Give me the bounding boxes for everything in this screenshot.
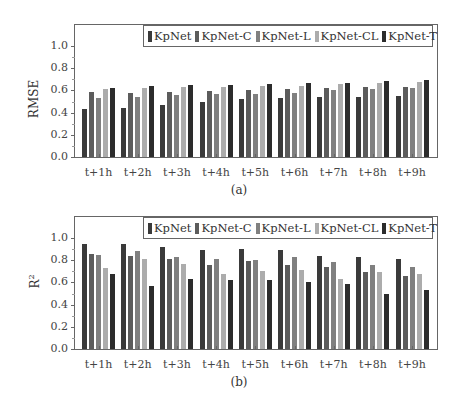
rmse-y-tick-label: 0.2: [38, 128, 68, 141]
rmse-x-tick-mark: [295, 154, 296, 157]
legend-label: KpNet-T: [388, 29, 437, 43]
r2-bar-kpnet-t: [188, 279, 193, 349]
r2-legend: KpNetKpNet-CKpNet-LKpNet-CLKpNet-T: [143, 217, 433, 239]
rmse-x-tick-label: t+5h: [235, 166, 275, 179]
legend-label: KpNet-CL: [321, 29, 379, 43]
r2-bar-kpnet-c: [363, 272, 368, 349]
r2-x-tick-mark: [177, 346, 178, 349]
r2-bar-kpnet-t: [267, 280, 272, 349]
rmse-y-tick-label: 0.0: [38, 150, 68, 163]
r2-bar-kpnet-cl: [338, 279, 343, 349]
r2-x-tick-mark: [295, 346, 296, 349]
legend-label: KpNet-C: [201, 221, 251, 235]
r2-y-minor-tick: [72, 249, 75, 250]
r2-x-tick-label: t+1h: [79, 358, 119, 371]
rmse-bar-kpnet-cl: [221, 87, 226, 157]
rmse-legend-item: KpNet-CL: [315, 29, 379, 43]
r2-y-tick-mark: [71, 305, 75, 306]
r2-x-tick-mark: [255, 346, 256, 349]
rmse-bar-kpnet-t: [345, 83, 350, 157]
legend-label: KpNet-L: [262, 221, 311, 235]
rmse-bar-kpnet: [121, 108, 126, 157]
rmse-y-tick-mark: [71, 157, 75, 158]
r2-bar-kpnet-t: [384, 294, 389, 350]
r2-bar-kpnet-l: [331, 262, 336, 349]
rmse-bar-kpnet-cl: [181, 87, 186, 157]
r2-bar-kpnet-l: [292, 257, 297, 349]
rmse-bar-kpnet-t: [228, 85, 233, 157]
rmse-x-tick-mark: [99, 154, 100, 157]
rmse-bar-kpnet-l: [96, 98, 101, 157]
r2-y-minor-tick: [72, 316, 75, 317]
rmse-y-tick-mark: [71, 68, 75, 69]
rmse-x-tick-mark: [373, 154, 374, 157]
rmse-bar-kpnet-cl: [299, 86, 304, 157]
rmse-bar-kpnet-c: [285, 89, 290, 157]
rmse-y-minor-tick: [72, 57, 75, 58]
r2-y-tick-label: 0.0: [38, 342, 68, 355]
r2-y-tick-label: 1.0: [38, 231, 68, 244]
r2-bar-kpnet-l: [135, 251, 140, 349]
r2-bar-kpnet-c: [167, 259, 172, 349]
legend-swatch-icon: [256, 223, 260, 234]
r2-caption: (b): [219, 375, 259, 389]
rmse-bar-kpnet-cl: [417, 82, 422, 157]
rmse-y-minor-tick: [72, 124, 75, 125]
r2-bar-kpnet-l: [370, 265, 375, 349]
rmse-bar-kpnet-c: [207, 91, 212, 157]
r2-x-tick-mark: [334, 346, 335, 349]
r2-bar-kpnet-l: [96, 255, 101, 349]
r2-y-minor-tick: [72, 294, 75, 295]
r2-x-tick-mark: [138, 346, 139, 349]
rmse-bar-kpnet: [160, 105, 165, 157]
rmse-bar-kpnet-l: [253, 94, 258, 157]
r2-bar-kpnet: [82, 244, 87, 349]
r2-bar-kpnet: [396, 259, 401, 349]
rmse-bar-kpnet-c: [167, 92, 172, 157]
r2-y-tick-label: 0.4: [38, 298, 68, 311]
rmse-x-tick-mark: [138, 154, 139, 157]
r2-x-tick-label: t+4h: [196, 358, 236, 371]
r2-bar-kpnet-cl: [142, 259, 147, 349]
r2-bar-kpnet: [239, 249, 244, 349]
rmse-legend-item: KpNet-T: [382, 29, 437, 43]
r2-legend-item: KpNet-L: [256, 221, 311, 235]
r2-x-tick-mark: [216, 346, 217, 349]
r2-bar-kpnet-l: [174, 257, 179, 349]
rmse-x-tick-label: t+1h: [79, 166, 119, 179]
r2-y-minor-tick: [72, 338, 75, 339]
rmse-x-tick-label: t+4h: [196, 166, 236, 179]
rmse-x-tick-label: t+9h: [392, 166, 432, 179]
legend-swatch-icon: [195, 31, 199, 42]
rmse-y-minor-tick: [72, 79, 75, 80]
r2-bar-kpnet-c: [128, 256, 133, 349]
legend-label: KpNet: [154, 29, 191, 43]
rmse-bar-kpnet-c: [403, 87, 408, 157]
rmse-y-tick-label: 0.6: [38, 83, 68, 96]
rmse-bar-kpnet-l: [214, 94, 219, 157]
r2-bar-kpnet: [160, 247, 165, 349]
rmse-y-tick-mark: [71, 113, 75, 114]
r2-bar-kpnet: [200, 250, 205, 349]
r2-x-tick-label: t+5h: [235, 358, 275, 371]
rmse-y-tick-label: 0.4: [38, 106, 68, 119]
legend-label: KpNet-T: [388, 221, 437, 235]
legend-label: KpNet-L: [262, 29, 311, 43]
r2-y-tick-mark: [71, 349, 75, 350]
r2-y-tick-mark: [71, 260, 75, 261]
r2-bar-kpnet-t: [149, 286, 154, 349]
r2-y-minor-tick: [72, 271, 75, 272]
rmse-legend-item: KpNet-C: [195, 29, 251, 43]
r2-bar-kpnet-cl: [377, 272, 382, 349]
r2-x-tick-mark: [99, 346, 100, 349]
rmse-x-tick-label: t+7h: [314, 166, 354, 179]
r2-x-tick-label: t+8h: [353, 358, 393, 371]
rmse-legend: KpNetKpNet-CKpNet-LKpNet-CLKpNet-T: [143, 25, 433, 47]
rmse-bar-kpnet-t: [149, 86, 154, 157]
rmse-x-tick-label: t+6h: [275, 166, 315, 179]
rmse-x-tick-mark: [177, 154, 178, 157]
rmse-bar-kpnet: [356, 97, 361, 157]
rmse-bar-kpnet-cl: [338, 84, 343, 157]
legend-swatch-icon: [382, 31, 386, 42]
rmse-bar-kpnet-l: [174, 95, 179, 157]
